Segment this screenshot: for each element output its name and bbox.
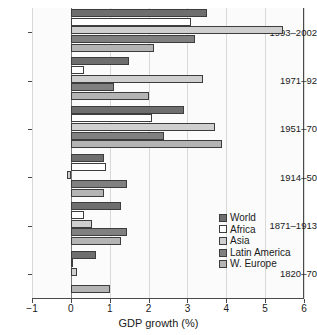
group-tick-1 (28, 81, 32, 82)
group-tick-4 (28, 226, 32, 227)
bar-africa-1 (71, 66, 85, 74)
x-axis-title: GDP growth (%) (0, 317, 317, 329)
gridline--1 (32, 8, 33, 298)
legend-item-world: World (219, 212, 291, 224)
bar-africa-3 (71, 163, 106, 171)
tick-label-5: 5 (255, 303, 275, 315)
bar-latin-america-4 (71, 228, 127, 236)
legend-swatch-icon (219, 237, 227, 245)
group-label-2: 1951–70 (251, 123, 317, 134)
bar-asia-0 (71, 26, 283, 34)
legend-item-w-europe: W. Europe (219, 258, 291, 270)
legend-swatch-icon (219, 260, 227, 268)
bar-africa-5 (71, 259, 73, 267)
tick-label-1: 1 (100, 303, 120, 315)
bar-w-europe-0 (71, 44, 155, 52)
gridline-3 (187, 8, 188, 298)
legend-swatch-icon (219, 249, 227, 257)
bar-latin-america-0 (71, 35, 195, 43)
bar-asia-2 (71, 123, 215, 131)
group-tick-5 (28, 274, 32, 275)
group-label-5: 1820–70 (251, 268, 317, 279)
bar-africa-4 (71, 211, 85, 219)
tick-label-0: 0 (61, 303, 81, 315)
bar-world-3 (71, 154, 104, 162)
legend-label: World (230, 212, 256, 224)
tick-label-2: 2 (139, 303, 159, 315)
bar-latin-america-3 (71, 180, 127, 188)
bar-w-europe-5 (71, 285, 110, 293)
legend-swatch-icon (219, 225, 227, 233)
legend: WorldAfricaAsiaLatin AmericaW. Europe (219, 212, 291, 270)
group-tick-3 (28, 177, 32, 178)
bar-world-0 (71, 9, 207, 17)
bar-latin-america-2 (71, 132, 164, 140)
bar-w-europe-3 (71, 189, 104, 197)
legend-item-africa: Africa (219, 224, 291, 236)
legend-item-asia: Asia (219, 235, 291, 247)
bar-latin-america-1 (71, 83, 114, 91)
bar-world-2 (71, 106, 184, 114)
tick-label-4: 4 (216, 303, 236, 315)
bar-africa-2 (71, 114, 153, 122)
tick-label-3: 3 (177, 303, 197, 315)
group-label-1: 1971–92 (251, 75, 317, 86)
bar-world-1 (71, 57, 129, 65)
bar-asia-4 (71, 220, 92, 228)
gridline-6 (304, 8, 305, 298)
legend-label: Africa (230, 224, 256, 236)
bar-world-4 (71, 202, 122, 210)
bar-africa-0 (71, 18, 191, 26)
bar-w-europe-2 (71, 140, 223, 148)
tick-label--1: −1 (22, 303, 42, 315)
bar-world-5 (71, 251, 96, 259)
legend-label: Latin America (230, 247, 291, 259)
axis-bottom-spine (32, 298, 304, 299)
bar-asia-3 (67, 171, 71, 179)
gdp-growth-bar-chart: −10123456 1993–20021971–921951–701914–50… (0, 0, 317, 335)
group-tick-2 (28, 129, 32, 130)
legend-swatch-icon (219, 214, 227, 222)
bar-w-europe-4 (71, 237, 122, 245)
group-tick-0 (28, 32, 32, 33)
legend-label: W. Europe (230, 258, 277, 270)
bar-w-europe-1 (71, 92, 149, 100)
legend-label: Asia (230, 235, 249, 247)
tick-label-6: 6 (294, 303, 314, 315)
bar-asia-5 (71, 268, 77, 276)
bar-asia-1 (71, 75, 203, 83)
group-label-3: 1914–50 (251, 172, 317, 183)
legend-item-latin-america: Latin America (219, 247, 291, 259)
